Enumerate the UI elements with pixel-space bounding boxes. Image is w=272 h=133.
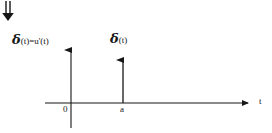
- label-left-argument: (t)=u'(t): [21, 36, 49, 46]
- label-delta-of-t: δ(t): [110, 30, 127, 46]
- delta-function-figure: δ(t)=u'(t) δ(t) 0 a t: [0, 0, 272, 133]
- delta-symbol-middle: δ: [110, 31, 119, 46]
- delta-symbol-left: δ: [12, 32, 21, 47]
- axis-label-t: t: [259, 97, 262, 106]
- label-delta-equals-u-prime: δ(t)=u'(t): [12, 31, 49, 47]
- axis-label-a: a: [120, 105, 124, 114]
- label-middle-argument: (t): [119, 35, 128, 45]
- figure-canvas: [0, 0, 272, 133]
- axis-label-origin: 0: [63, 105, 68, 114]
